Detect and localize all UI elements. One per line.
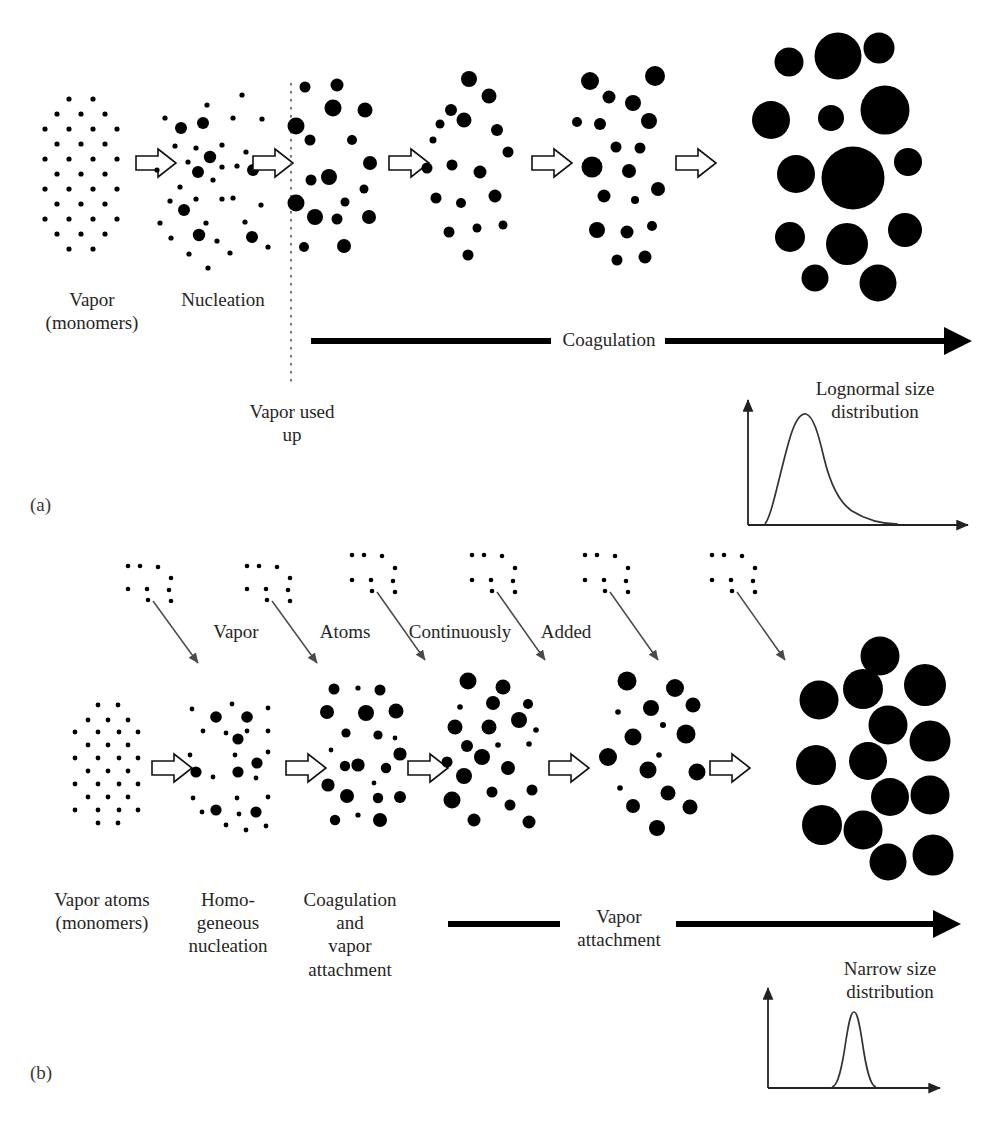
stage-arrow-b-3 (408, 754, 448, 782)
label-feed-atoms: Atoms (296, 620, 394, 643)
cluster-vapor-monomers-b (73, 703, 141, 826)
cluster-vapor-monomers-a (42, 96, 119, 251)
plot-narrow-curve (832, 1012, 876, 1087)
cluster-final-narrow-b (796, 637, 954, 881)
feed-packets-b (126, 553, 758, 604)
label-vapor-monomers-a: Vapor (monomers) (22, 288, 162, 334)
cluster-nucleation-b (188, 702, 271, 833)
label-vapor-used-up: Vapor used up (227, 400, 357, 446)
stage-arrow-b-4 (549, 754, 589, 782)
label-feed-added: Added (518, 620, 614, 643)
cluster-coagulation-a-1 (288, 79, 378, 254)
stage-arrow-a-4 (532, 149, 572, 177)
stage-arrow-b-2 (286, 754, 326, 782)
label-nucleation-a: Nucleation (157, 288, 289, 311)
feed-packet-2 (245, 564, 293, 604)
stage-arrow-b-1 (152, 754, 192, 782)
stage-arrow-b-5 (710, 754, 750, 782)
stage-arrow-a-5 (676, 149, 716, 177)
cluster-coagulation-b-2 (442, 673, 539, 829)
caption-narrow-distribution: Narrow size distribution (790, 958, 990, 1004)
cluster-coagulation-a-3 (572, 66, 665, 266)
caption-lognormal-distribution: Lognormal size distribution (760, 378, 990, 424)
feed-arrow-6 (737, 592, 785, 660)
panel-a (42, 33, 972, 526)
figure-canvas: Vapor (monomers) Nucleation Vapor used u… (0, 0, 992, 1128)
plot-lognormal-curve (765, 414, 898, 524)
feed-packet-3 (350, 553, 398, 595)
feed-packet-5 (583, 553, 631, 595)
cluster-coagulation-b-3 (599, 672, 706, 837)
coagulation-arrowhead (944, 327, 972, 355)
cluster-coagulation-b-1 (320, 684, 407, 828)
label-feed-vapor: Vapor (186, 620, 286, 643)
label-coagulation-vapor-attachment-b: Coagulation and vapor attachment (288, 888, 412, 981)
label-vapor-attachment-b: Vapor attachment (556, 905, 682, 951)
label-coagulation: Coagulation (545, 328, 673, 351)
stage-arrow-a-3 (389, 149, 429, 177)
label-vapor-atoms-monomers-b: Vapor atoms (monomers) (30, 888, 174, 934)
stage-arrow-a-1 (136, 149, 176, 177)
label-homogeneous-nucleation-b: Homo- geneous nucleation (166, 888, 290, 958)
vapor-attachment-arrowhead (933, 910, 961, 938)
cluster-final-lognormal-a (752, 33, 922, 302)
panel-tag-b: (b) (30, 1062, 52, 1084)
feed-packet-4 (470, 553, 518, 595)
cluster-coagulation-a-2 (422, 71, 514, 261)
cluster-nucleation-a (154, 92, 270, 270)
panel-tag-a: (a) (30, 494, 51, 516)
feed-arrow-5 (610, 592, 658, 660)
feed-packet-1 (126, 564, 174, 604)
stage-arrow-a-2 (253, 149, 293, 177)
feed-packet-6 (710, 553, 758, 595)
label-feed-continuously: Continuously (400, 620, 520, 643)
